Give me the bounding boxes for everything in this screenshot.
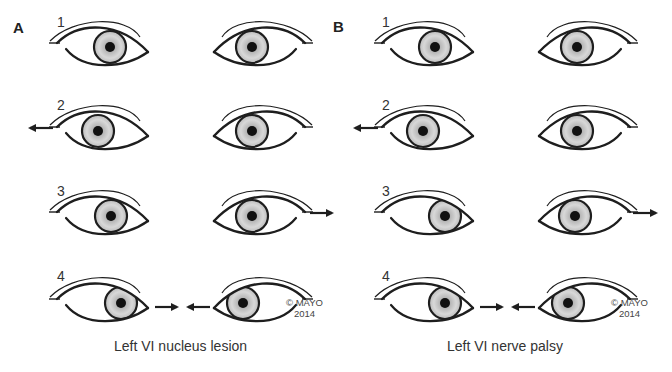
- copyright-b-line1: © MAYO: [611, 297, 648, 308]
- pupil-icon: [93, 126, 103, 136]
- copyright-b: © MAYO 2014: [611, 297, 648, 319]
- eye-right-A1: [214, 22, 313, 65]
- eye-right-A3: [214, 191, 313, 234]
- copyright-a: © MAYO 2014: [286, 297, 323, 319]
- row-number-b1: 1: [382, 14, 390, 30]
- copyright-a-line1: © MAYO: [286, 297, 323, 308]
- row-number-a4: 4: [57, 268, 65, 284]
- eye-right-B3: [539, 191, 638, 234]
- eye-left-A4: [49, 278, 148, 321]
- panel-label-a: A: [13, 19, 24, 36]
- eye-diagram-canvas: [0, 0, 672, 372]
- copyright-a-line2: 2014: [286, 308, 323, 319]
- eye-right-B1: [539, 22, 638, 65]
- caption-a: Left VI nucleus lesion: [114, 338, 247, 354]
- pupil-icon: [238, 298, 248, 308]
- pupil-icon: [430, 42, 440, 52]
- copyright-b-line2: 2014: [611, 308, 648, 319]
- panel-label-b: B: [333, 18, 344, 35]
- row-number-a2: 2: [57, 97, 65, 113]
- eye-left-B4: [374, 278, 473, 321]
- pupil-icon: [247, 211, 257, 221]
- pupil-icon: [440, 298, 450, 308]
- pupil-icon: [116, 298, 126, 308]
- pupil-icon: [105, 42, 115, 52]
- pupil-icon: [418, 126, 428, 136]
- row-number-b2: 2: [382, 97, 390, 113]
- pupil-icon: [106, 211, 116, 221]
- pupil-icon: [247, 126, 257, 136]
- row-number-b3: 3: [382, 183, 390, 199]
- panel-a: [30, 22, 332, 321]
- pupil-icon: [572, 126, 582, 136]
- row-number-a1: 1: [57, 14, 65, 30]
- pupil-icon: [563, 298, 573, 308]
- pupil-icon: [572, 42, 582, 52]
- pupil-icon: [440, 211, 450, 221]
- panel-b: [355, 22, 656, 321]
- caption-b: Left VI nerve palsy: [447, 338, 563, 354]
- eye-right-B2: [539, 106, 638, 149]
- row-number-b4: 4: [382, 268, 390, 284]
- eye-right-A2: [214, 106, 313, 149]
- row-number-a3: 3: [57, 183, 65, 199]
- pupil-icon: [247, 42, 257, 52]
- pupil-icon: [570, 211, 580, 221]
- figure: A B 1 2 3 4 1 2 3 4 © MAYO 2014 © MAYO 2…: [0, 0, 672, 372]
